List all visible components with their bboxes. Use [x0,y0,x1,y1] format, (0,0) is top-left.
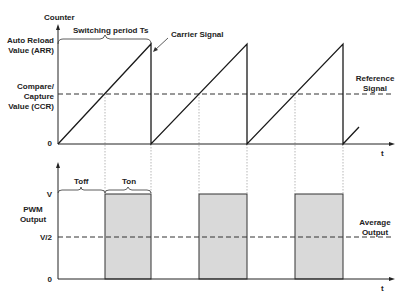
pwm-diagram: Counter Switching period Ts Carrier Sign… [0,0,405,299]
toff-label: Toff [74,177,89,187]
toff-brace [58,187,105,193]
ccr-label-line1: Compare/ [0,82,54,92]
switching-period-label: Switching period Ts [73,26,148,36]
reference-label-line2: Signal [350,84,400,94]
v-level-label: V [0,190,52,200]
ccr-label-line2: Capture [0,92,54,102]
top-t-label: t [381,149,384,159]
pwm-label-line2: Output [16,215,50,225]
average-label-line1: Average [350,218,400,228]
carrier-signal-label: Carrier Signal [171,30,223,40]
ccr-label-line3: Value (CCR) [0,102,54,112]
top-y-arrow-icon [56,24,60,30]
carrier-sawtooth [58,44,359,144]
carrier-pointer [155,38,168,50]
arr-label-line2: Value (ARR) [0,46,54,56]
top-x-arrow-icon [389,142,395,146]
ton-label: Ton [122,177,136,187]
reference-label-line1: Reference [350,74,400,84]
ton-brace [105,187,151,193]
bottom-t-label: t [381,284,384,294]
half-v-level-label: V/2 [0,233,52,243]
arr-label-line1: Auto Reload [0,36,54,46]
diagram-graphics [0,0,405,299]
bottom-zero-label: 0 [0,275,52,285]
bottom-y-arrow-icon [56,162,60,168]
pwm-label-line1: PWM [16,205,50,215]
top-zero-label: 0 [0,139,52,149]
period-brace [58,35,151,44]
bottom-x-arrow-icon [389,277,395,281]
counter-axis-label: Counter [44,13,75,23]
average-label-line2: Output [350,228,400,238]
